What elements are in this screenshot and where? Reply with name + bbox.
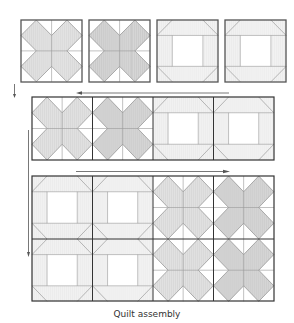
x-block: [153, 239, 213, 301]
frame-block: [32, 176, 92, 239]
x-block: [214, 239, 274, 301]
quilt-assembly-diagram: [0, 0, 294, 323]
x-block: [89, 20, 150, 82]
frame-block: [225, 20, 286, 82]
frame-block: [93, 239, 153, 301]
row-1-separate-blocks: [21, 20, 286, 82]
arrow-down-long-icon: [27, 130, 30, 257]
frame-block: [32, 239, 92, 301]
frame-block: [157, 20, 218, 82]
frame-block: [153, 97, 213, 160]
x-block: [32, 97, 92, 160]
row-2-joined-strip: [32, 97, 274, 160]
frame-block: [93, 176, 153, 239]
x-block: [214, 176, 274, 239]
arrow-down-short-icon: [13, 84, 16, 98]
frame-block: [214, 97, 274, 160]
figure-caption: Quilt assembly: [0, 309, 294, 319]
x-block: [153, 176, 213, 239]
row-3-joined-grid: [32, 176, 274, 301]
arrow-left-icon: [76, 91, 229, 94]
x-block: [93, 97, 153, 160]
x-block: [21, 20, 82, 82]
arrow-right-icon: [76, 170, 230, 173]
